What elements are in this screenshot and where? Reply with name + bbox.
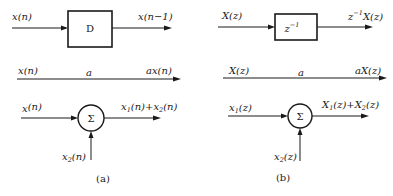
adder-output-label-b: X1(z)+X2(z) bbox=[321, 99, 379, 112]
adder-output-label-a: x1(n)+x2(n) bbox=[121, 101, 178, 114]
adder-input1-arrowhead-b bbox=[281, 114, 288, 119]
adder-input1-label-a: x(n) bbox=[22, 101, 42, 114]
gain-arrowhead-b bbox=[379, 76, 387, 81]
sigma-symbol-a: Σ bbox=[87, 113, 94, 124]
adder-input2-arrowhead-a bbox=[89, 131, 94, 138]
panel-b: X(z) z−1 z−1X(z) X(z) a aX(z) x1(z) Σ bbox=[218, 9, 387, 183]
gain-branch-a: x(n) a ax(n) bbox=[17, 65, 181, 82]
adder-output-arrowhead-a bbox=[153, 116, 161, 121]
adder-input1-arrowhead-a bbox=[71, 116, 78, 121]
delay-input-arrowhead-a bbox=[61, 26, 68, 31]
sigma-symbol-b: Σ bbox=[296, 111, 303, 122]
gain-coefficient-label-a: a bbox=[86, 67, 92, 78]
adder-input2-label-a: x2(n) bbox=[62, 151, 86, 164]
delay-output-arrowhead-a bbox=[164, 26, 172, 31]
gain-output-label-b: aX(z) bbox=[355, 65, 381, 76]
adder-a: x(n) Σ x1(n)+x2(n) x2(n) bbox=[21, 101, 178, 164]
delay-output-arrowhead-b bbox=[365, 25, 373, 30]
delay-input-label-b: X(z) bbox=[221, 10, 242, 21]
gain-output-label-a: ax(n) bbox=[146, 65, 172, 76]
adder-output-arrowhead-b bbox=[361, 114, 369, 119]
adder-input1-label-b: x1(z) bbox=[229, 102, 252, 115]
panel-a: x(n) D x(n−1) x(n) a ax(n) x(n) Σ x1 bbox=[12, 11, 181, 184]
delay-element-b: X(z) z−1 z−1X(z) bbox=[218, 9, 383, 40]
adder-input2-label-b: x2(z) bbox=[274, 151, 297, 164]
delay-element-a: x(n) D x(n−1) bbox=[12, 11, 173, 47]
caption-a: (a) bbox=[96, 173, 110, 184]
delay-output-label-b: z−1X(z) bbox=[347, 9, 383, 22]
delay-input-arrowhead-b bbox=[268, 25, 275, 30]
gain-coefficient-label-b: a bbox=[298, 67, 304, 78]
delay-block-label-a: D bbox=[86, 23, 94, 34]
delay-input-label-a: x(n) bbox=[12, 11, 32, 22]
gain-branch-b: X(z) a aX(z) bbox=[223, 65, 387, 81]
adder-b: x1(z) Σ X1(z)+X2(z) x2(z) bbox=[228, 99, 379, 164]
gain-input-label-a: x(n) bbox=[18, 65, 38, 76]
gain-input-label-b: X(z) bbox=[228, 65, 249, 76]
signal-flow-diagram: x(n) D x(n−1) x(n) a ax(n) x(n) Σ x1 bbox=[0, 0, 393, 196]
adder-input2-arrowhead-b bbox=[298, 128, 303, 135]
diagram-svg: x(n) D x(n−1) x(n) a ax(n) x(n) Σ x1 bbox=[0, 0, 393, 196]
delay-output-label-a: x(n−1) bbox=[138, 11, 173, 22]
caption-b: (b) bbox=[276, 172, 290, 183]
gain-arrowhead-a bbox=[173, 77, 181, 82]
